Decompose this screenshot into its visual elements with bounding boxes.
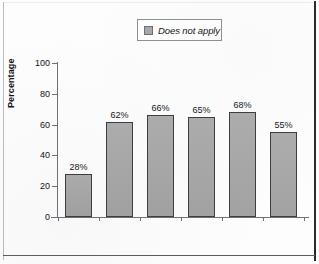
bar-protestant: 62% <box>106 122 133 217</box>
bar-jewish: 65% <box>188 117 215 217</box>
y-axis-tick-label: 60 <box>40 120 50 130</box>
page-frame-bottom <box>3 255 315 256</box>
x-axis-tick <box>181 217 182 221</box>
y-axis-tick <box>52 186 58 187</box>
bar-value-label: 66% <box>151 103 169 113</box>
y-axis-tick-label: 20 <box>40 181 50 191</box>
chart-page: Does not apply Percentage 02040608010028… <box>0 0 319 264</box>
y-axis-tick <box>52 63 58 64</box>
legend-label-does-not-apply: Does not apply <box>158 25 220 36</box>
bar-value-label: 65% <box>192 105 210 115</box>
y-axis-tick-label: 40 <box>40 150 50 160</box>
x-axis-tick <box>304 217 305 221</box>
y-axis-tick-label: 0 <box>45 212 50 222</box>
bar-mormon: 68% <box>229 112 256 217</box>
bar-catholic: 66% <box>147 115 174 217</box>
bar-no religion: 55% <box>270 132 297 217</box>
x-axis-line <box>51 217 309 218</box>
y-axis-tick-label: 100 <box>35 58 50 68</box>
bar-muslim: 28% <box>65 174 92 217</box>
chart-legend: Does not apply <box>137 19 222 41</box>
x-axis-tick <box>140 217 141 221</box>
y-axis-tick-label: 80 <box>40 89 50 99</box>
bar-value-label: 55% <box>274 120 292 130</box>
y-axis-tick <box>52 94 58 95</box>
x-axis-tick <box>58 217 59 221</box>
x-axis-tick <box>263 217 264 221</box>
page-frame-right <box>314 1 316 261</box>
page-frame-top <box>3 2 315 3</box>
bar-value-label: 62% <box>110 110 128 120</box>
bar-value-label: 68% <box>233 100 251 110</box>
x-axis-tick <box>99 217 100 221</box>
y-axis-tick <box>52 155 58 156</box>
bar-value-label: 28% <box>69 162 87 172</box>
legend-swatch-does-not-apply <box>144 26 153 35</box>
y-axis-title: Percentage <box>6 58 16 108</box>
y-axis-tick <box>52 125 58 126</box>
page-frame-left <box>3 2 4 260</box>
plot-area: 02040608010028%Muslim62%Protestant66%Cat… <box>58 63 304 217</box>
x-axis-tick <box>222 217 223 221</box>
